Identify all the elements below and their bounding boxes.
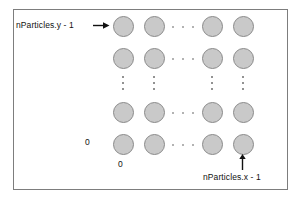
particle-r1-c3: [233, 48, 254, 69]
particle-r1-c2: [202, 48, 223, 69]
vertical-ellipsis-icon: [118, 76, 128, 90]
label-x-max: nParticles.x - 1: [203, 172, 261, 182]
label-y-max: nParticles.y - 1: [16, 20, 74, 30]
label-y-zero: 0: [85, 137, 90, 147]
arrow-right-icon: [93, 22, 110, 29]
vertical-ellipsis-icon: [149, 76, 159, 90]
particle-r2-c3: [233, 102, 254, 123]
arrow-up-icon: [238, 154, 247, 170]
horizontal-ellipsis-icon: [172, 22, 194, 32]
horizontal-ellipsis-icon: [172, 108, 194, 118]
particle-r0-c0: [113, 16, 134, 37]
particle-r0-c3: [233, 16, 254, 37]
particle-r2-c0: [113, 102, 134, 123]
particle-r1-c1: [144, 48, 165, 69]
horizontal-ellipsis-icon: [172, 54, 194, 64]
particle-r2-c1: [144, 102, 165, 123]
label-x-zero: 0: [118, 159, 123, 169]
particle-r3-c3: [233, 134, 254, 155]
vertical-ellipsis-icon: [207, 76, 217, 90]
particle-r3-c1: [144, 134, 165, 155]
particle-r3-c2: [202, 134, 223, 155]
particle-r1-c0: [113, 48, 134, 69]
particle-r3-c0: [113, 134, 134, 155]
particle-r2-c2: [202, 102, 223, 123]
horizontal-ellipsis-icon: [172, 140, 194, 150]
vertical-ellipsis-icon: [238, 76, 248, 90]
particle-r0-c1: [144, 16, 165, 37]
figure-canvas: nParticles.y - 1 0 0 nParticles.x - 1: [0, 0, 303, 198]
particle-r0-c2: [202, 16, 223, 37]
